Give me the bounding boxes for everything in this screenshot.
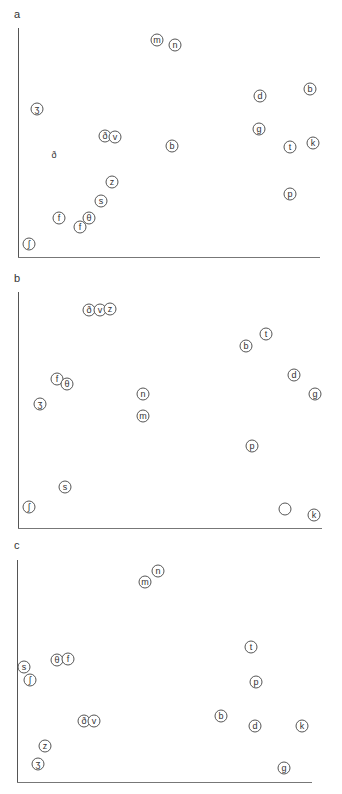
x-axis [18,528,322,529]
phoneme-point: z [104,303,117,316]
phoneme-point: ð [48,150,61,163]
phoneme-point: ʃ [23,501,36,514]
phoneme-point: g [278,762,291,775]
panel-label-b: b [14,272,20,284]
phoneme-point: p [246,440,259,453]
phoneme-point: ʒ [32,758,45,771]
phoneme-point: m [137,410,150,423]
phoneme-point: v [88,715,101,728]
phoneme-point: t [284,141,297,154]
phoneme-point: p [250,676,263,689]
phoneme-point: m [151,34,164,47]
phoneme-point: p [284,188,297,201]
phoneme-point: t [260,328,273,341]
y-axis [17,560,18,782]
phoneme-point: b [215,710,228,723]
phoneme-point: b [304,83,317,96]
phoneme-point: d [254,90,267,103]
phoneme-point: n [169,39,182,52]
phoneme-point: f [53,212,66,225]
phoneme-point: g [309,388,322,401]
phoneme-point: s [59,481,72,494]
phoneme-point: s [95,195,108,208]
phoneme-point: θ [61,378,74,391]
phoneme-point: k [308,509,321,522]
phoneme-point: b [240,340,253,353]
y-axis [18,28,19,257]
phoneme-point: m [139,576,152,589]
phoneme-point: t [245,641,258,654]
phoneme-point: ʃ [24,674,37,687]
phoneme-point: n [137,388,150,401]
x-axis [18,257,320,258]
phoneme-point: d [288,369,301,382]
phoneme-point [279,503,292,516]
panel-label-c: c [14,539,20,551]
phoneme-point: s [18,661,31,674]
phoneme-point: d [249,720,262,733]
phoneme-point: z [106,176,119,189]
y-axis [18,292,19,528]
phoneme-point: ʃ [23,238,36,251]
phoneme-point: b [166,140,179,153]
phoneme-point: ʒ [34,398,47,411]
phoneme-point: ʒ [31,103,44,116]
x-axis [17,782,312,783]
phoneme-point: n [152,565,165,578]
phoneme-point: f [74,221,87,234]
phoneme-point: k [307,137,320,150]
phoneme-point: f [62,653,75,666]
phoneme-point: z [39,740,52,753]
phoneme-point: g [253,123,266,136]
panel-label-a: a [14,8,20,20]
phoneme-point: k [296,720,309,733]
phoneme-point: v [109,131,122,144]
